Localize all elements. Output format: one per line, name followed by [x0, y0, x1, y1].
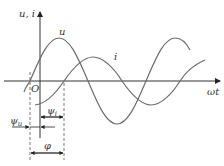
psi-u-label: ψu	[10, 115, 23, 128]
curve-i-label: i	[114, 51, 117, 62]
phi-label: φ	[44, 140, 51, 151]
sinusoid-phase-diagram: u, i ωt O u i ψi ψu φ	[0, 0, 224, 166]
x-axis-label: ωt	[207, 86, 220, 97]
origin-label: O	[31, 83, 39, 94]
y-axis-label: u, i	[19, 8, 35, 19]
psi-i-label: ψi	[47, 105, 57, 118]
curve-u-label: u	[59, 26, 65, 37]
